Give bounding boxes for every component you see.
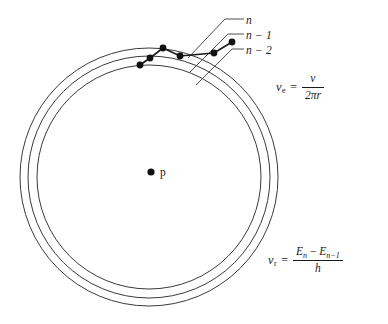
formula-radiation-lhs: νr (268, 253, 276, 268)
electron-dot (137, 62, 144, 69)
fraction-numerator: v (307, 72, 318, 85)
orbit-circle-n-2 (37, 65, 261, 289)
formula-emission-frequency: νe = v 2πr (276, 72, 324, 102)
electron-dot (229, 39, 236, 46)
orbit-label-n: n (246, 14, 252, 26)
figure-canvas: n n − 1 n − 2 p νe = v 2πr νr = En − En−… (0, 0, 388, 324)
minus-sign: − (307, 245, 319, 257)
fraction-v-over-2pir: v 2πr (302, 72, 324, 102)
electron-dot (177, 53, 184, 60)
energy-subscript-n-minus-1: n−1 (326, 251, 339, 260)
equals-sign: = (290, 80, 297, 95)
orbit-circle-n (20, 48, 278, 306)
nu-symbol: ν (276, 80, 282, 95)
nu-subscript-e: e (282, 86, 286, 95)
fraction-denominator: h (312, 262, 324, 275)
equals-sign: = (281, 253, 288, 268)
two-pi: 2π (305, 89, 317, 101)
electron-dot (211, 50, 218, 57)
formula-emission-lhs: νe (276, 80, 285, 95)
fraction-numerator: En − En−1 (293, 245, 343, 258)
nucleus-label: p (160, 166, 166, 178)
orbit-circle-n-1 (28, 56, 270, 298)
orbit-label-n-minus-1: n − 1 (246, 29, 272, 41)
electron-dot (147, 55, 154, 62)
nu-subscript-r: r (274, 259, 277, 268)
formula-radiation-frequency: νr = En − En−1 h (268, 245, 343, 275)
fraction-bar (302, 87, 324, 88)
energy-symbol-n: E (296, 245, 303, 257)
radius-r: r (316, 89, 320, 101)
orbit-label-n-minus-2: n − 2 (246, 44, 272, 56)
nu-symbol: ν (268, 253, 274, 268)
fraction-energy-difference-over-h: En − En−1 h (293, 245, 343, 275)
fraction-denominator: 2πr (302, 89, 324, 102)
energy-subscript-n: n (303, 251, 307, 260)
nucleus-dot (147, 168, 154, 175)
electron-dot (160, 45, 167, 52)
